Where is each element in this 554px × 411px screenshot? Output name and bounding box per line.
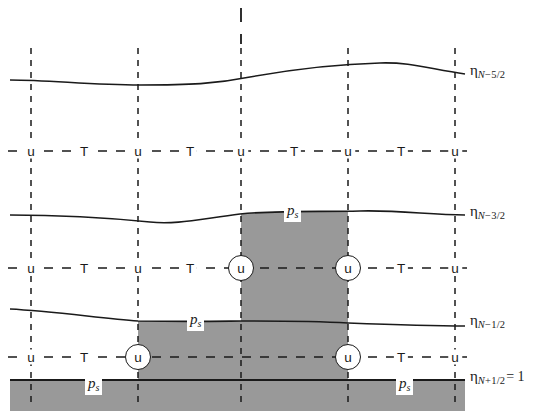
ps-symbol: p	[287, 202, 295, 218]
u-grid-point: u	[234, 144, 248, 159]
u-grid-point: u	[131, 144, 145, 159]
t-grid-point: T	[394, 261, 408, 276]
surface-pressure-label: ps	[85, 376, 102, 395]
eta-subscript-level: N	[478, 375, 485, 386]
u-grid-point: u	[24, 350, 38, 365]
eta-subscript-offset: −3/2	[485, 210, 505, 221]
ps-subscript: s	[295, 209, 299, 220]
eta-symbol: η	[470, 312, 478, 328]
t-grid-point: T	[183, 144, 197, 159]
u-grid-point-label: u	[336, 350, 360, 365]
eta-value: = 1	[506, 369, 524, 384]
t-grid-point: T	[394, 350, 408, 365]
u-grid-point: u	[448, 144, 462, 159]
t-grid-point: T	[77, 144, 91, 159]
eta-subscript-offset: −1/2	[485, 319, 505, 330]
u-grid-point: u	[448, 350, 462, 365]
eta-subscript-offset: +1/2	[485, 375, 505, 386]
eta-symbol: η	[470, 368, 478, 384]
u-grid-point-circled: u	[335, 255, 361, 281]
ps-symbol: p	[190, 311, 198, 327]
ps-subscript: s	[407, 382, 411, 393]
u-grid-point-circled: u	[335, 344, 361, 370]
u-grid-point: u	[131, 261, 145, 276]
eta-subscript-offset: −5/2	[485, 69, 505, 80]
curve-eta-n-minus-5-2	[10, 63, 465, 85]
eta-level-label: ηN+1/2= 1	[470, 368, 525, 386]
u-grid-point-circled: u	[125, 344, 151, 370]
t-grid-point: T	[287, 144, 301, 159]
surface-pressure-label: ps	[284, 203, 301, 222]
u-grid-point: u	[448, 261, 462, 276]
ps-subscript: s	[96, 382, 100, 393]
eta-coordinate-diagram: TTTTTTTTTuuuuuuuuuuuuuu pspspsps ηN−5/2η…	[0, 0, 554, 411]
eta-subscript-level: N	[478, 210, 485, 221]
t-grid-point: T	[183, 261, 197, 276]
eta-subscript: N−1/2	[478, 319, 505, 330]
u-grid-point-circled: u	[228, 255, 254, 281]
u-grid-point-label: u	[126, 350, 150, 365]
eta-symbol: η	[470, 62, 478, 78]
u-grid-point: u	[24, 261, 38, 276]
t-grid-point: T	[394, 144, 408, 159]
eta-subscript: N+1/2	[478, 375, 505, 386]
eta-subscript: N−3/2	[478, 210, 505, 221]
eta-level-label: ηN−3/2	[470, 203, 506, 221]
eta-symbol: η	[470, 203, 478, 219]
eta-subscript-level: N	[478, 69, 485, 80]
surface-pressure-label: ps	[396, 376, 413, 395]
surface-pressure-label: ps	[187, 312, 204, 331]
eta-subscript: N−5/2	[478, 69, 505, 80]
eta-subscript-level: N	[478, 319, 485, 330]
u-grid-point: u	[24, 144, 38, 159]
ps-symbol: p	[399, 375, 407, 391]
eta-level-label: ηN−1/2	[470, 312, 506, 330]
u-grid-point: u	[341, 144, 355, 159]
u-grid-point-label: u	[229, 261, 253, 276]
curve-eta-n-minus-3-2	[10, 211, 465, 223]
ps-symbol: p	[88, 375, 96, 391]
shaded-layer-mid	[10, 309, 465, 380]
ps-subscript: s	[198, 318, 202, 329]
u-grid-point-label: u	[336, 261, 360, 276]
t-grid-point: T	[77, 350, 91, 365]
eta-level-label: ηN−5/2	[470, 62, 506, 80]
t-grid-point: T	[77, 261, 91, 276]
